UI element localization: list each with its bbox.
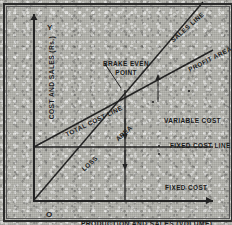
fixed-cost-label: FIXED COST <box>165 184 207 193</box>
chart-lines-svg <box>33 14 213 202</box>
origin-letter: O <box>46 210 52 219</box>
fixed-cost-arrowhead-down <box>122 164 127 170</box>
x-axis-title: PRODUCTION AND SALES (VOLUME) <box>81 220 213 225</box>
y-axis-title: COST AND SALES (Rs.) <box>48 13 55 143</box>
break-even-point-label-line2: POINT <box>95 69 157 78</box>
variable-cost-label: VARIABLE COST <box>164 117 221 126</box>
fixed-cost-line-label: FIXED COST LINE <box>170 142 231 151</box>
break-even-point-label-line1: BRAKE EVEN <box>95 60 157 69</box>
break-even-point-label: BRAKE EVEN POINT <box>95 60 157 77</box>
breakeven-chart-figure: Y X O COST AND SALES (Rs.) PRODUCTION AN… <box>0 0 232 225</box>
plot-area: Y X O COST AND SALES (Rs.) PRODUCTION AN… <box>33 14 213 202</box>
